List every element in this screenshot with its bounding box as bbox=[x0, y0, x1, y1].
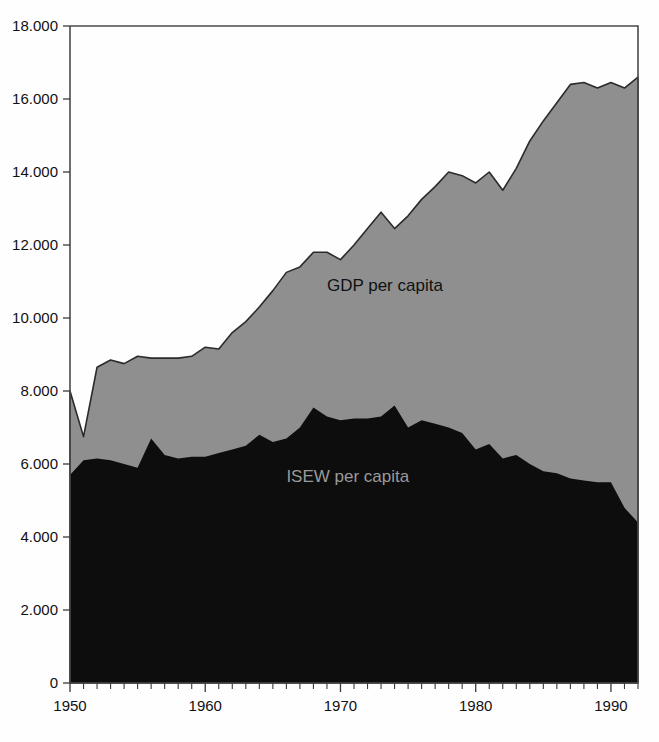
x-tick-label: 1960 bbox=[189, 697, 222, 714]
x-axis-ticks bbox=[70, 683, 638, 692]
y-tick-label: 16.000 bbox=[12, 90, 58, 107]
series-label-isew: ISEW per capita bbox=[286, 467, 409, 486]
y-axis-labels: 02.0004.0006.0008.00010.00012.00014.0001… bbox=[12, 17, 58, 691]
x-tick-label: 1980 bbox=[459, 697, 492, 714]
y-tick-label: 6.000 bbox=[20, 455, 58, 472]
y-axis-ticks bbox=[63, 26, 70, 683]
y-tick-label: 0 bbox=[50, 674, 58, 691]
chart-container: 02.0004.0006.0008.00010.00012.00014.0001… bbox=[0, 0, 659, 742]
area-series-group bbox=[70, 77, 638, 683]
y-tick-label: 12.000 bbox=[12, 236, 58, 253]
x-axis-labels: 19501960197019801990 bbox=[53, 697, 627, 714]
y-tick-label: 18.000 bbox=[12, 17, 58, 34]
y-tick-label: 2.000 bbox=[20, 601, 58, 618]
x-tick-label: 1950 bbox=[53, 697, 86, 714]
series-label-gdp: GDP per capita bbox=[327, 276, 443, 295]
area-chart: 02.0004.0006.0008.00010.00012.00014.0001… bbox=[0, 0, 659, 742]
y-tick-label: 10.000 bbox=[12, 309, 58, 326]
x-tick-label: 1990 bbox=[594, 697, 627, 714]
y-tick-label: 8.000 bbox=[20, 382, 58, 399]
y-tick-label: 14.000 bbox=[12, 163, 58, 180]
x-tick-label: 1970 bbox=[324, 697, 357, 714]
y-tick-label: 4.000 bbox=[20, 528, 58, 545]
